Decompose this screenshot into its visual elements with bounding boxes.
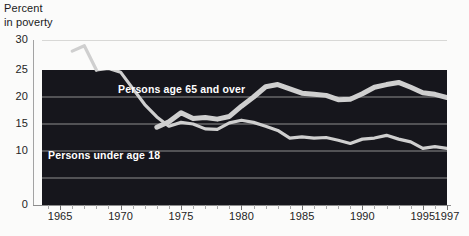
series-label-elderly: Persons age 65 and over (118, 83, 245, 95)
x-tick-1966 (72, 205, 73, 209)
x-tick-label-1997: 1997 (435, 210, 460, 222)
x-tick-1993 (399, 205, 400, 209)
y-tick-30: 30 (0, 33, 33, 45)
y-axis-tick-labels: 30252015100 (0, 0, 33, 236)
x-tick-label-1985: 1985 (289, 210, 314, 222)
x-tick-1991 (374, 205, 375, 209)
x-tick-1978 (217, 205, 218, 209)
x-tick-label-1995: 1995 (410, 210, 435, 222)
x-tick-1964 (48, 205, 49, 209)
y-tick-15: 15 (0, 117, 33, 129)
x-tick-1981 (254, 205, 255, 209)
line-persons-65-and-over-upper (72, 46, 96, 70)
x-tick-1979 (229, 205, 230, 209)
x-tick-1973 (157, 205, 158, 209)
x-tick-label-1980: 1980 (229, 210, 254, 222)
x-tick-1994 (411, 205, 412, 209)
x-tick-label-1970: 1970 (108, 210, 133, 222)
x-tick-1996 (435, 205, 436, 209)
poverty-rate-chart: Percent in poverty 30252015100 Persons a… (0, 0, 469, 236)
x-tick-1992 (387, 205, 388, 209)
x-tick-label-1965: 1965 (48, 210, 73, 222)
y-tick-20: 20 (0, 90, 33, 102)
x-tick-1989 (350, 205, 351, 209)
x-tick-1987 (326, 205, 327, 209)
x-tick-1967 (84, 205, 85, 209)
x-tick-1971 (133, 205, 134, 209)
x-tick-1986 (314, 205, 315, 209)
y-tick-25: 25 (0, 63, 33, 75)
x-tick-1977 (205, 205, 206, 209)
x-tick-1984 (290, 205, 291, 209)
plot-area: Persons age 65 and over Persons under ag… (42, 70, 447, 205)
y-axis-line (33, 40, 34, 206)
gridline-30 (42, 40, 447, 41)
series-label-children: Persons under age 18 (48, 149, 160, 161)
x-tick-1988 (338, 205, 339, 209)
x-tick-label-1990: 1990 (350, 210, 375, 222)
x-tick-1983 (278, 205, 279, 209)
x-tick-1974 (169, 205, 170, 209)
x-tick-label-1975: 1975 (169, 210, 194, 222)
x-tick-1976 (193, 205, 194, 209)
x-tick-1972 (145, 205, 146, 209)
y-tick-10: 10 (0, 144, 33, 156)
x-tick-1969 (108, 205, 109, 209)
x-tick-1968 (96, 205, 97, 209)
x-tick-1982 (266, 205, 267, 209)
